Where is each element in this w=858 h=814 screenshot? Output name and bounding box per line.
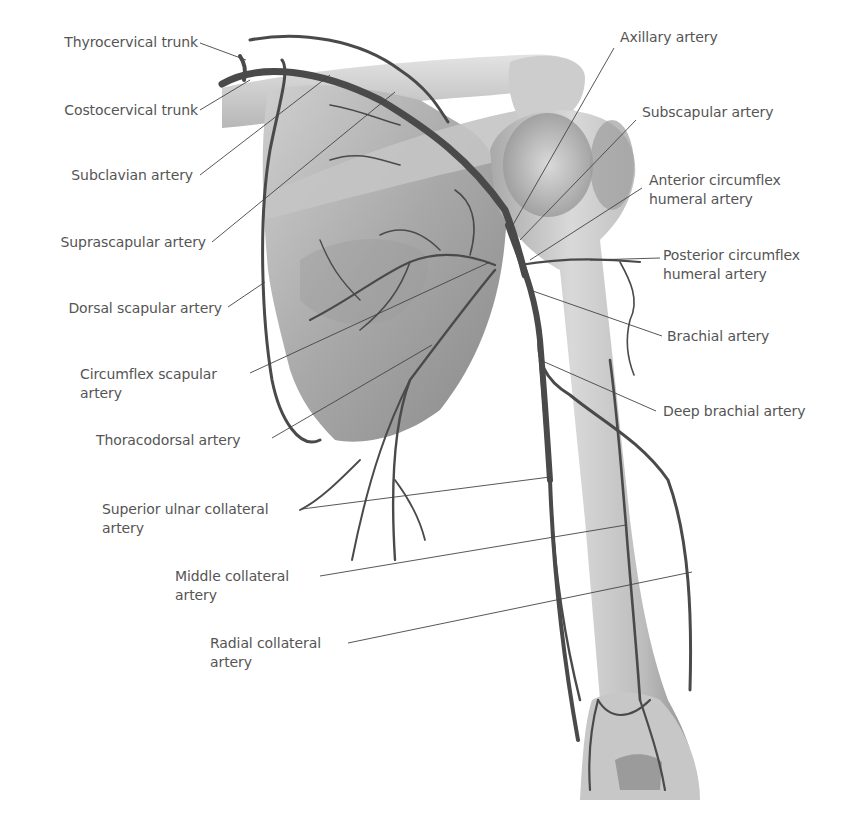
label-posterior-circumflex-humeral-artery: Posterior circumflexhumeral artery xyxy=(663,246,800,284)
label-deep-brachial-artery: Deep brachial artery xyxy=(663,402,805,421)
label-thyrocervical-trunk: Thyrocervical trunk xyxy=(64,33,198,52)
label-middle-collateral-artery: Middle collateralartery xyxy=(175,567,289,605)
label-thoracodorsal-artery: Thoracodorsal artery xyxy=(96,431,241,450)
label-subclavian-artery: Subclavian artery xyxy=(71,166,193,185)
humerus xyxy=(490,110,700,800)
label-circumflex-scapular-artery: Circumflex scapularartery xyxy=(80,365,217,403)
label-brachial-artery: Brachial artery xyxy=(667,327,769,346)
label-anterior-circumflex-humeral-artery: Anterior circumflexhumeral artery xyxy=(649,171,781,209)
label-dorsal-scapular-artery: Dorsal scapular artery xyxy=(68,299,222,318)
label-superior-ulnar-collateral-artery: Superior ulnar collateralartery xyxy=(102,500,269,538)
label-costocervical-trunk: Costocervical trunk xyxy=(64,101,198,120)
label-suprascapular-artery: Suprascapular artery xyxy=(61,233,206,252)
label-subscapular-artery: Subscapular artery xyxy=(642,103,773,122)
anatomy-figure: Thyrocervical trunk Costocervical trunk … xyxy=(0,0,858,814)
label-radial-collateral-artery: Radial collateralartery xyxy=(210,634,321,672)
label-axillary-artery: Axillary artery xyxy=(620,28,718,47)
